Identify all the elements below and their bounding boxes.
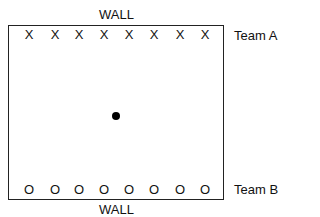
team-b-player: O (22, 183, 36, 197)
team-a-label: Team A (234, 28, 277, 43)
team-a-player: X (48, 28, 62, 42)
team-a-player: X (22, 28, 36, 42)
team-b-label: Team B (234, 182, 278, 197)
team-b-player: O (147, 183, 161, 197)
team-a-player: X (147, 28, 161, 42)
team-a-player: X (72, 28, 86, 42)
team-b-player: O (198, 183, 212, 197)
team-a-player: X (122, 28, 136, 42)
team-a-player: X (198, 28, 212, 42)
team-a-player: X (97, 28, 111, 42)
team-b-player: O (173, 183, 187, 197)
team-b-player: O (72, 183, 86, 197)
ball-icon (112, 112, 120, 120)
wall-top-label: WALL (99, 7, 134, 22)
team-b-player: O (122, 183, 136, 197)
team-b-player: O (48, 183, 62, 197)
team-a-player: X (173, 28, 187, 42)
wall-bottom-label: WALL (99, 202, 134, 217)
team-b-player: O (97, 183, 111, 197)
